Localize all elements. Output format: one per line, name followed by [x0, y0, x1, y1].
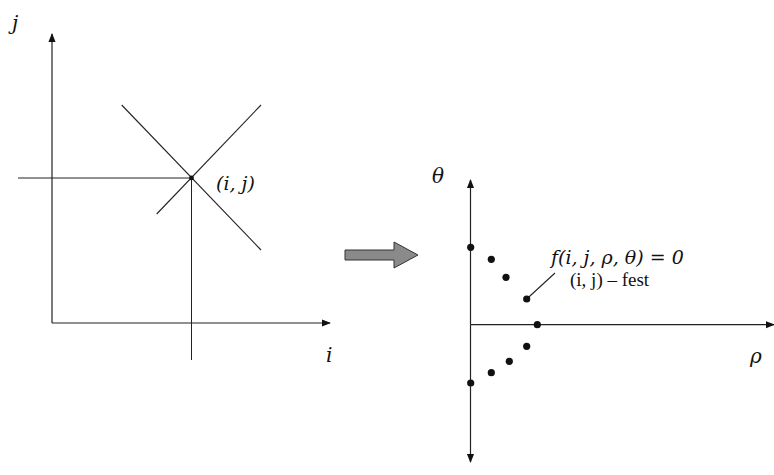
curve-point [523, 295, 530, 302]
curve-point [534, 321, 541, 328]
line-through-point-ascending [157, 105, 261, 214]
curve-point [467, 379, 474, 386]
image-space-panel: (i, j) j i [8, 11, 332, 367]
curve-point [467, 244, 474, 251]
equation-label: f(i, j, ρ, θ) = 0 [549, 246, 684, 268]
annotation-label: (i, j) – fest [570, 269, 650, 291]
theta-axis-label: θ [432, 164, 444, 188]
curve-points [467, 244, 541, 387]
annotation-leader-line [527, 273, 555, 299]
curve-point [502, 274, 509, 281]
x-axis-label: i [326, 343, 332, 367]
rho-axis-label: ρ [749, 344, 762, 368]
curve-point [506, 358, 513, 365]
point-label: (i, j) [216, 172, 255, 194]
curve-point [488, 369, 495, 376]
hough-transform-diagram: (i, j) j i θ ρ f(i, j, ρ, θ) = 0 (i, j) … [0, 0, 774, 475]
pixel-point [189, 176, 194, 181]
parameter-space-panel: θ ρ f(i, j, ρ, θ) = 0 (i, j) – fest [432, 164, 774, 462]
block-arrow-icon [345, 242, 418, 268]
y-axis-label: j [8, 11, 18, 35]
curve-point [488, 256, 495, 263]
curve-point [523, 343, 530, 350]
transform-arrow [345, 242, 418, 268]
